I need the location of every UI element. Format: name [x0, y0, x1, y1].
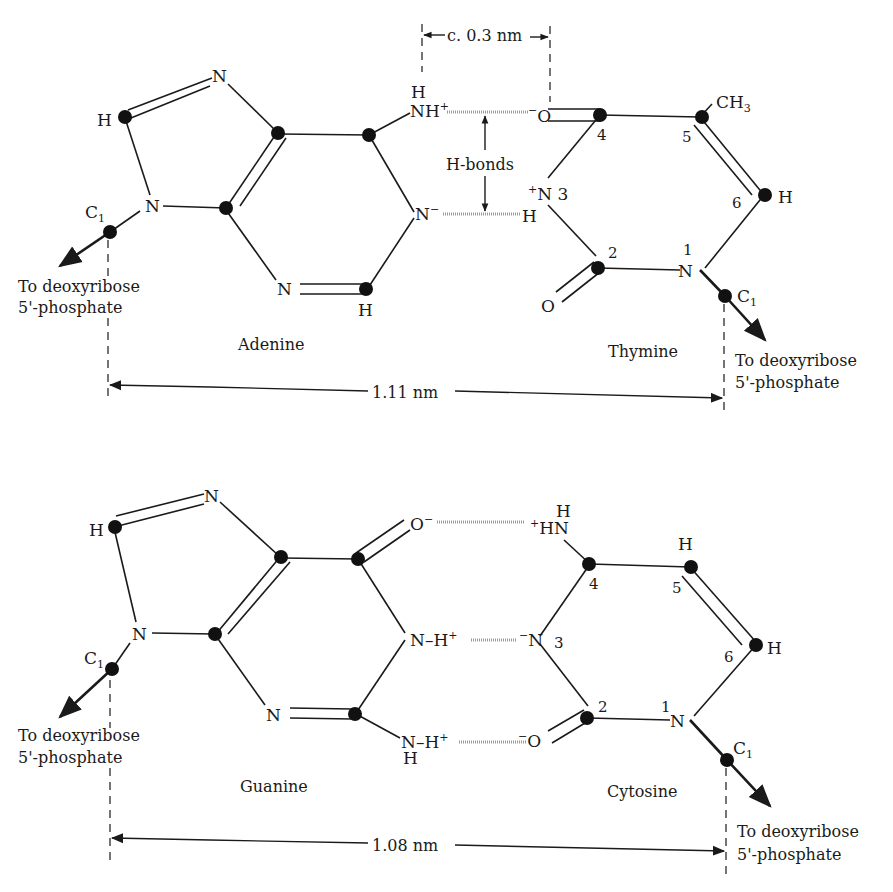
adenine-thymine-pair: N H N C1 H NH+ N− N H: [18, 24, 857, 412]
guanine-n1: N–H+: [410, 629, 457, 650]
adenine-c8-h: H: [97, 110, 112, 130]
cytosine-c5-h: H: [678, 534, 693, 554]
atom-dot: [219, 201, 233, 215]
thymine-n3: +N 3: [528, 183, 568, 204]
adenine-sugar-label-2: 5'-phosphate: [18, 298, 122, 317]
guanine-n3: N: [266, 705, 281, 725]
thymine-sugar-label-1: To deoxyribose: [735, 351, 857, 370]
cytosine-n1: N: [670, 711, 685, 731]
thymine-pos4: 4: [597, 126, 607, 144]
atom-dot: [593, 108, 607, 122]
h-bonds-label: H-bonds: [446, 155, 514, 174]
guanine-n2-h: H: [403, 748, 418, 768]
atom-dot: [695, 110, 709, 124]
atom-dot: [208, 627, 222, 641]
thymine-c6-h: H: [778, 187, 793, 207]
thymine-c1: C1: [737, 286, 757, 309]
atom-dot: [591, 261, 605, 275]
atom-dot: [274, 550, 288, 564]
at-distance-label: 1.11 nm: [372, 383, 438, 402]
thymine-pos6: 6: [732, 194, 742, 212]
atom-dot: [580, 711, 594, 725]
gc-distance-label: 1.08 nm: [372, 836, 438, 855]
cytosine-n3: −N: [519, 629, 543, 650]
thymine-n1-number: 1: [683, 241, 693, 259]
cytosine-sugar-label-2: 5'-phosphate: [737, 845, 841, 864]
cytosine-pos3: 3: [554, 634, 564, 652]
adenine-sugar-label-1: To deoxyribose: [18, 277, 140, 296]
cytosine-pos6: 6: [724, 648, 734, 666]
atom-dot: [362, 128, 376, 142]
atom-dot: [103, 225, 117, 239]
thymine-sugar-label-2: 5'-phosphate: [735, 373, 839, 392]
atom-dot: [359, 282, 373, 296]
base-pair-diagram: N H N C1 H NH+ N− N H: [0, 0, 893, 892]
guanine-n9: N: [132, 624, 147, 644]
thymine-o2: O: [541, 296, 555, 316]
cytosine-pos2: 2: [598, 698, 608, 716]
atom-dot: [118, 110, 132, 124]
adenine-n3: N: [277, 279, 292, 299]
adenine-n7: N: [212, 66, 227, 86]
thymine-pos5: 5: [682, 128, 692, 146]
adenine-n6: NH+: [410, 100, 449, 121]
adenine-c2-h: H: [358, 300, 373, 320]
cytosine-structure: H +HN H H −N 3 −O 1 N C1 4 5 6 2: [518, 501, 782, 806]
adenine-label: Adenine: [237, 335, 304, 354]
cytosine-sugar-label-1: To deoxyribose: [737, 822, 859, 841]
thymine-label: Thymine: [608, 342, 678, 361]
thymine-structure: −O CH3 +N 3 H H 1 N O C1 4 5 6 2: [522, 92, 793, 340]
cytosine-pos4: 4: [589, 575, 599, 593]
cytosine-label: Cytosine: [607, 782, 677, 801]
adenine-n6-h: H: [411, 82, 426, 102]
adenine-n1: N−: [415, 203, 439, 224]
atom-dot: [758, 188, 772, 202]
atom-dot: [108, 520, 122, 534]
hbond-distance-label: c. 0.3 nm: [447, 26, 522, 45]
atom-dot: [271, 126, 285, 140]
atom-dot: [105, 662, 119, 676]
thymine-h3: H: [522, 206, 537, 226]
adenine-c1: C1: [85, 202, 105, 225]
guanine-o6: O−: [410, 513, 433, 534]
atom-dot: [718, 289, 732, 303]
cytosine-n4: +HN: [530, 517, 569, 538]
cytosine-pos5: 5: [672, 579, 682, 597]
cytosine-c1: C1: [733, 738, 753, 761]
guanine-n7: N: [204, 486, 219, 506]
cytosine-c6-h: H: [767, 638, 782, 658]
guanine-label: Guanine: [240, 777, 308, 796]
atom-dot: [351, 552, 365, 566]
thymine-ch3: CH3: [716, 92, 751, 115]
atom-dot: [720, 753, 734, 767]
atom-dot: [749, 638, 763, 652]
atom-dot: [348, 707, 362, 721]
guanine-sugar-label-2: 5'-phosphate: [18, 748, 122, 767]
thymine-o4: −O: [528, 104, 551, 126]
thymine-pos2: 2: [608, 244, 618, 262]
adenine-n9: N: [145, 196, 160, 216]
guanine-c8-h: H: [89, 520, 104, 540]
guanine-sugar-label-1: To deoxyribose: [18, 726, 140, 745]
guanine-c1: C1: [84, 648, 104, 671]
atom-dot: [684, 560, 698, 574]
thymine-n1: N: [678, 261, 693, 281]
guanine-cytosine-pair: N H N C1 O− N–H+ N N–H+ H: [18, 486, 859, 878]
atom-dot: [582, 557, 596, 571]
